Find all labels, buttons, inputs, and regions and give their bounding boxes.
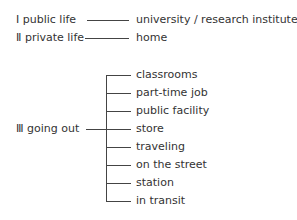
numeral: Ⅰ [16, 13, 19, 26]
branch-line [106, 75, 131, 76]
connector-line [87, 20, 129, 21]
place-label: part-time job [136, 86, 208, 100]
place-label: store [136, 122, 164, 136]
category-label: public life [23, 13, 76, 26]
branch-line [106, 183, 131, 184]
place-label: in transit [136, 194, 185, 208]
place-label: university / research institute [136, 13, 297, 27]
branch-line [106, 111, 131, 112]
connector-line [85, 38, 129, 39]
category-going-out: Ⅲ going out [16, 122, 79, 136]
numeral: Ⅱ [16, 31, 21, 44]
place-label: home [136, 31, 167, 45]
numeral: Ⅲ [16, 122, 24, 135]
category-public-life: Ⅰ public life [16, 13, 76, 27]
branch-line [106, 129, 131, 130]
place-label: classrooms [136, 68, 198, 82]
branch-line [106, 165, 131, 166]
category-label: going out [27, 122, 79, 135]
place-label: traveling [136, 140, 185, 154]
place-label: on the street [136, 158, 207, 172]
branch-line [106, 93, 131, 94]
category-private-life: Ⅱ private life [16, 31, 84, 45]
category-label: private life [25, 31, 84, 44]
place-label: station [136, 176, 174, 190]
connector-line [86, 129, 106, 130]
branch-line [106, 147, 131, 148]
branch-line [106, 201, 131, 202]
place-label: public facility [136, 104, 209, 118]
